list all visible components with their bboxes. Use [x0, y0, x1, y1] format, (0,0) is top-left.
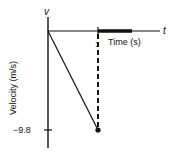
- velocity-time-chart: v t Time (s) 1 −9.8 Velocity (m/s): [0, 0, 179, 155]
- velocity-line: [48, 31, 98, 130]
- data-point: [95, 127, 100, 132]
- x-axis-label: Time (s): [108, 37, 141, 47]
- y-axis-label: Velocity (m/s): [8, 61, 18, 115]
- y-axis-symbol: v: [44, 6, 50, 17]
- x-axis-symbol: t: [163, 25, 167, 36]
- x-tick-label: 1: [95, 40, 100, 49]
- y-tick-label: −9.8: [13, 125, 31, 135]
